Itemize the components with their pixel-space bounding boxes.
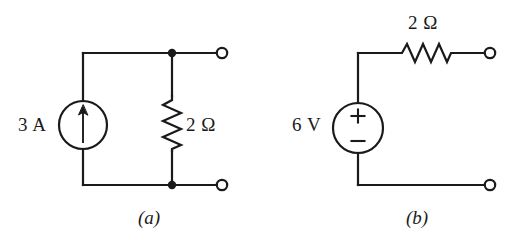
resistor-a-zigzag <box>163 96 181 151</box>
circuit-figure: 3 A 2 Ω 6 V 2 Ω (a) (b) <box>0 0 521 249</box>
circuit-b-group <box>333 44 495 190</box>
voltage-source-label: 6 V <box>292 114 321 136</box>
terminal-a-top <box>217 48 227 58</box>
resistor-b-label: 2 Ω <box>408 12 438 34</box>
subfigure-label-a: (a) <box>138 207 160 229</box>
terminal-a-bottom <box>217 180 227 190</box>
resistor-a-label: 2 Ω <box>186 114 216 136</box>
terminal-b-bottom <box>485 180 495 190</box>
voltage-source-plus-icon <box>352 110 365 123</box>
subfigure-label-b: (b) <box>406 207 428 229</box>
node-dot-a-top <box>168 49 176 57</box>
terminal-b-top <box>485 48 495 58</box>
current-source-label: 3 A <box>18 114 46 136</box>
resistor-b-zigzag <box>398 44 452 62</box>
node-dot-a-bottom <box>168 181 176 189</box>
circuit-schematic-canvas <box>0 0 521 249</box>
